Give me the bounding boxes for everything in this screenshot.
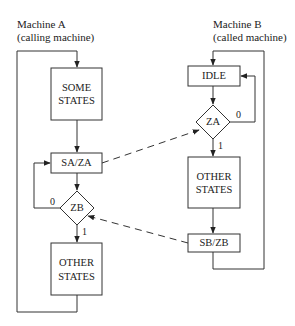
other-states-b-label-1: OTHER [188, 170, 240, 183]
idle-label: IDLE [188, 69, 240, 82]
sb-zb-label: SB/ZB [188, 236, 240, 249]
signal-sbzb-to-zb [88, 216, 188, 243]
some-states-label-2: STATES [51, 94, 102, 107]
some-states-label-1: SOME [51, 81, 102, 94]
signal-saza-to-za [102, 130, 199, 163]
handshake-flow-diagram [0, 0, 295, 326]
machine-b-subtitle: (called machine) [213, 31, 287, 44]
sa-za-label: SA/ZA [51, 156, 102, 169]
zb-true-label: 1 [82, 226, 87, 237]
zb-label: ZB [60, 201, 94, 214]
za-false-label: 0 [236, 109, 241, 120]
za-true-label: 1 [218, 140, 223, 151]
machine-a-subtitle: (calling machine) [17, 31, 94, 44]
machine-b-title: Machine B [213, 18, 262, 31]
other-states-box-a [51, 243, 102, 295]
other-states-a-label-2: STATES [51, 270, 102, 283]
other-states-b-label-2: STATES [188, 183, 240, 196]
machine-a-title: Machine A [17, 18, 66, 31]
other-states-a-label-1: OTHER [51, 256, 102, 269]
zb-false-label: 0 [50, 196, 55, 207]
za-label: ZA [196, 115, 230, 128]
